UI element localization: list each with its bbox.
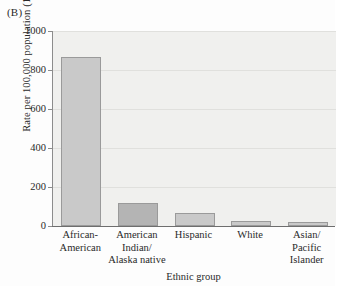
x-axis-line <box>52 226 335 227</box>
x-axis-title: Ethnic group <box>52 271 335 282</box>
y-axis-tick-mark <box>48 187 52 188</box>
y-axis-tick-label: 200 <box>16 182 46 193</box>
plot-area <box>52 31 336 226</box>
y-axis-tick-label: 0 <box>16 221 46 232</box>
y-axis-tick-label: 600 <box>16 104 46 115</box>
x-axis-category-label: Asian/PacificIslander <box>271 229 340 267</box>
category-label-line: Islander <box>271 254 340 267</box>
category-label-line: Alaska native <box>102 254 173 267</box>
y-axis-tick-mark <box>48 70 52 71</box>
y-axis-tick-mark <box>48 226 52 227</box>
bar <box>175 213 215 226</box>
category-label-line: Pacific <box>271 242 340 255</box>
y-axis-tick-mark <box>48 109 52 110</box>
category-label-line: Asian/ <box>271 229 340 242</box>
y-axis-tick-label: 400 <box>16 143 46 154</box>
category-label-line: Indian/ <box>102 242 173 255</box>
y-axis-tick-label: 800 <box>16 65 46 76</box>
gridline <box>53 31 336 32</box>
y-axis-tick-mark <box>48 148 52 149</box>
y-axis-tick-labels: 02004006008001000 <box>16 0 46 286</box>
bar <box>61 57 101 226</box>
bar <box>118 203 158 226</box>
y-axis-tick-label: 1000 <box>16 26 46 37</box>
y-axis-tick-mark <box>48 31 52 32</box>
